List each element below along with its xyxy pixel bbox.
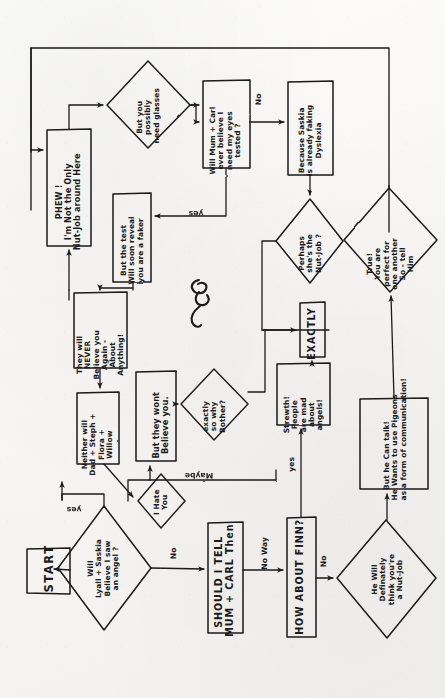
- flowchart-sheet: START Will Lyall + Saskia Believe I saw …: [0, 0, 445, 698]
- flowchart-ink-layer: [0, 0, 445, 698]
